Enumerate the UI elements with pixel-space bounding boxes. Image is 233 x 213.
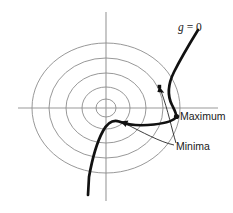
upper-minimum-point-marker: [158, 85, 162, 89]
maximum-point-marker: [174, 114, 179, 119]
constraint-relation-glyph: =: [187, 21, 194, 33]
maximum-label: Maximum: [180, 111, 226, 122]
constraint-label-relation-value: = 0: [184, 21, 202, 33]
minima-leader-lower: [126, 124, 174, 145]
contour-diagram-figure: g = 0 Maximum Minima: [0, 0, 233, 213]
constraint-label: g = 0: [178, 22, 202, 34]
minima-label: Minima: [176, 141, 210, 152]
constraint-value-glyph: 0: [196, 21, 202, 33]
